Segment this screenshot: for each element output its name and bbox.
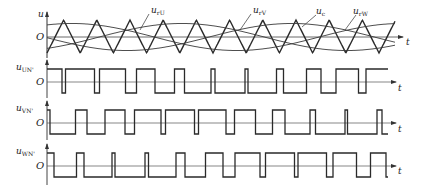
uVN-origin-label: O <box>36 118 44 128</box>
carrier-x-axis-arrow <box>398 35 404 39</box>
uUN-origin-label: O <box>36 77 44 87</box>
spwm-waveform-diagram <box>0 0 425 194</box>
uWN-origin-label: O <box>36 161 44 171</box>
curve-label-uc: uc <box>316 7 325 17</box>
carrier-y-axis-arrow <box>45 11 49 17</box>
uVN-time-label: t <box>398 125 402 134</box>
uUN-time-label: t <box>398 84 402 93</box>
uWN-time-label: t <box>398 167 402 176</box>
uWN-axis-label: uWN' <box>16 147 35 157</box>
curve-label-urV: urV <box>253 6 266 16</box>
carrier-axis-label: u <box>38 10 44 19</box>
carrier-origin-label: O <box>36 32 44 42</box>
pwm-pulse-trains <box>45 59 397 185</box>
curve-label-urU: urU <box>151 6 165 16</box>
uVN-axis-label: uVN' <box>16 104 33 114</box>
carrier-time-label: t <box>406 38 410 47</box>
uUN-axis-label: uUN' <box>16 63 34 73</box>
curve-label-urW: urW <box>353 7 368 17</box>
